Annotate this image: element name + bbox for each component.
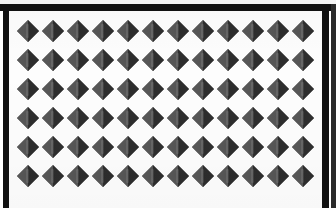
diamond-ridge-highlight xyxy=(301,82,304,96)
diamond-shape xyxy=(242,165,264,187)
diamond-shape xyxy=(67,165,89,187)
diamond-shape xyxy=(117,107,139,129)
diamond-shape xyxy=(242,78,264,100)
diamond-shape xyxy=(192,20,214,42)
diamond-shape xyxy=(92,165,114,187)
diamond-shape xyxy=(42,78,64,100)
diamond-shape xyxy=(142,20,164,42)
diamond-ridge-highlight xyxy=(126,111,129,125)
diamond-facet-right xyxy=(253,107,264,129)
diamond-ridge-highlight xyxy=(251,140,254,154)
diamond-shape xyxy=(217,20,239,42)
diamond-ridge-highlight xyxy=(126,169,129,183)
diamond-ridge-highlight xyxy=(76,53,79,67)
diamond-ridge-highlight xyxy=(51,82,54,96)
diamond-facet-right xyxy=(78,107,89,129)
diamond-shape xyxy=(192,107,214,129)
diamond-facet-right xyxy=(128,165,139,187)
diamond-ridge-highlight xyxy=(101,111,104,125)
diamond-facet-right xyxy=(153,165,164,187)
diamond-ridge-highlight xyxy=(151,140,154,154)
diamond-ridge-highlight xyxy=(51,169,54,183)
diamond-shape xyxy=(142,49,164,71)
diamond-facet-right xyxy=(103,78,114,100)
diamond-shape xyxy=(217,107,239,129)
diamond-facet-right xyxy=(128,20,139,42)
diamond-facet-right xyxy=(28,165,39,187)
diamond-facet-right xyxy=(278,165,289,187)
diamond-shape xyxy=(192,136,214,158)
diamond-facet-right xyxy=(303,78,314,100)
diamond-facet-right xyxy=(103,107,114,129)
diamond-facet-right xyxy=(178,49,189,71)
diamond-facet-right xyxy=(103,20,114,42)
diamond-facet-right xyxy=(153,20,164,42)
diamond-ridge-highlight xyxy=(226,53,229,67)
diamond-ridge-highlight xyxy=(176,53,179,67)
diamond-ridge-highlight xyxy=(201,24,204,38)
diamond-shape xyxy=(142,136,164,158)
diamond-facet-right xyxy=(78,165,89,187)
diamond-ridge-highlight xyxy=(126,53,129,67)
diamond-facet-right xyxy=(278,107,289,129)
diamond-shape xyxy=(42,136,64,158)
diamond-facet-right xyxy=(28,78,39,100)
diamond-ridge-highlight xyxy=(51,111,54,125)
diamond-facet-right xyxy=(103,49,114,71)
diamond-ridge-highlight xyxy=(76,169,79,183)
diamond-shape xyxy=(267,136,289,158)
diamond-facet-right xyxy=(228,20,239,42)
diamond-shape xyxy=(192,165,214,187)
diamond-shape xyxy=(42,20,64,42)
diamond-facet-right xyxy=(78,136,89,158)
diamond-ridge-highlight xyxy=(301,140,304,154)
diamond-shape xyxy=(92,107,114,129)
diamond-facet-right xyxy=(303,136,314,158)
diamond-ridge-highlight xyxy=(201,82,204,96)
diamond-shape xyxy=(92,136,114,158)
diamond-shape xyxy=(92,20,114,42)
diamond-facet-right xyxy=(28,49,39,71)
diamond-facet-right xyxy=(278,136,289,158)
diamond-facet-right xyxy=(303,49,314,71)
diamond-facet-right xyxy=(228,165,239,187)
diamond-shape xyxy=(267,165,289,187)
diamond-ridge-highlight xyxy=(226,169,229,183)
diamond-ridge-highlight xyxy=(276,24,279,38)
diamond-facet-right xyxy=(28,107,39,129)
diamond-shape xyxy=(92,78,114,100)
diamond-facet-right xyxy=(253,20,264,42)
diamond-ridge-highlight xyxy=(101,169,104,183)
diamond-ridge-highlight xyxy=(51,53,54,67)
diamond-shape xyxy=(17,49,39,71)
diamond-ridge-highlight xyxy=(251,169,254,183)
diamond-facet-right xyxy=(203,165,214,187)
diamond-facet-right xyxy=(28,136,39,158)
diamond-ridge-highlight xyxy=(276,169,279,183)
diamond-ridge-highlight xyxy=(126,82,129,96)
diamond-facet-right xyxy=(203,49,214,71)
diamond-shape xyxy=(217,136,239,158)
diamond-ridge-highlight xyxy=(276,53,279,67)
diamond-shape xyxy=(17,107,39,129)
diamond-ridge-highlight xyxy=(76,111,79,125)
diamond-ridge-highlight xyxy=(26,169,29,183)
diamond-facet-right xyxy=(278,49,289,71)
diamond-shape xyxy=(67,78,89,100)
diamond-facet-right xyxy=(78,49,89,71)
diamond-facet-right xyxy=(253,49,264,71)
diamond-ridge-highlight xyxy=(101,53,104,67)
diamond-shape xyxy=(242,136,264,158)
diamond-shape xyxy=(292,78,314,100)
diamond-shape xyxy=(292,49,314,71)
diamond-shape xyxy=(117,136,139,158)
diamond-shape xyxy=(267,78,289,100)
diamond-shape xyxy=(117,49,139,71)
diamond-facet-right xyxy=(228,78,239,100)
diamond-shape xyxy=(267,49,289,71)
diamond-shape xyxy=(217,165,239,187)
diamond-shape xyxy=(217,49,239,71)
diamond-ridge-highlight xyxy=(301,24,304,38)
diamond-facet-right xyxy=(78,20,89,42)
diamond-ridge-highlight xyxy=(151,82,154,96)
